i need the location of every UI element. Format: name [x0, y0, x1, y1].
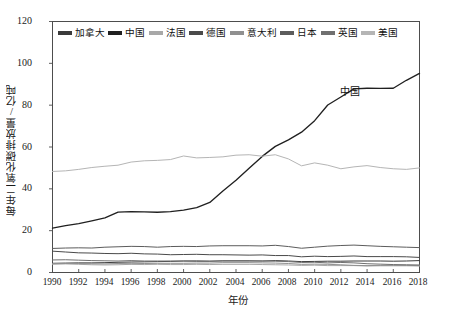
series-annotation-china: 中国: [340, 83, 360, 98]
data-lines: [53, 73, 420, 266]
plot-area: [0, 0, 452, 312]
axis-ticks: [49, 22, 420, 273]
chart-container: 每年二氧化碳排放量/亿吨 120 100 80 60 40 20 0 1990 …: [0, 0, 452, 312]
plot-frame: [53, 22, 420, 273]
